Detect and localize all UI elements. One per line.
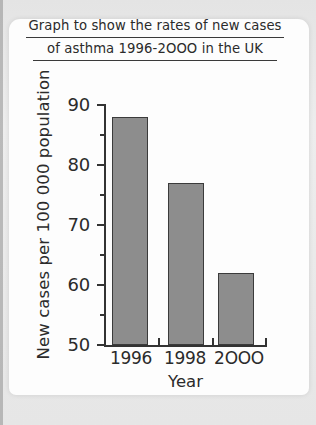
y-axis-minor-tick-65	[100, 254, 106, 256]
x-axis-tick-end	[265, 338, 267, 347]
y-axis-label-80: 80	[50, 154, 90, 175]
x-axis-tick-1	[158, 338, 160, 347]
y-axis-minor-tick-75	[100, 194, 106, 196]
y-axis-label-70: 70	[50, 214, 90, 235]
y-axis-minor-tick-85	[100, 134, 106, 136]
y-axis-label-90: 90	[50, 94, 90, 115]
y-axis-tick-60	[97, 284, 106, 286]
x-axis-label-1996: 1996	[105, 348, 157, 368]
bar-1996[interactable]	[112, 117, 148, 345]
x-axis-tick-2	[212, 338, 214, 347]
bar-1998[interactable]	[168, 183, 204, 345]
y-axis-minor-tick-55	[100, 314, 106, 316]
y-axis-label-60: 60	[50, 274, 90, 295]
y-axis-tick-90	[97, 104, 106, 106]
x-axis-label-2000: 2OOO	[213, 348, 265, 368]
y-axis-label-50: 50	[50, 334, 90, 355]
y-axis-title: New cases per 100 000 population	[34, 90, 53, 360]
y-axis-tick-70	[97, 224, 106, 226]
y-axis-tick-80	[97, 164, 106, 166]
bar-chart-plot-area: 90 80 70 60 50 1996 1998 2OOO New cases …	[0, 0, 316, 425]
x-axis-label-1998: 1998	[159, 348, 211, 368]
scanned-page-background: Graph to show the rates of new cases of …	[0, 0, 316, 425]
x-axis-title: Year	[104, 372, 267, 391]
x-axis-line	[104, 345, 267, 347]
bar-2000[interactable]	[218, 273, 254, 345]
x-axis-tick-start	[104, 338, 106, 347]
